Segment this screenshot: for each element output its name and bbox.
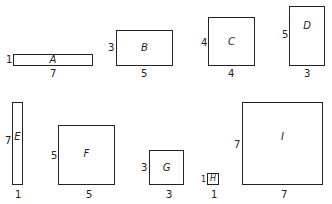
rectangle-name: A <box>14 55 92 65</box>
rectangle-name: G <box>150 163 183 173</box>
rectangle-name: E <box>13 132 22 142</box>
height-label: 7 <box>234 140 240 150</box>
rectangle-d: D <box>289 6 325 66</box>
width-label: 7 <box>281 190 287 200</box>
rectangle-c: C <box>208 17 255 66</box>
width-label: 5 <box>141 69 147 79</box>
rectangle-name: F <box>59 149 114 159</box>
width-label: 3 <box>166 190 172 200</box>
rectangle-f: F <box>58 125 115 185</box>
width-label: 5 <box>86 190 92 200</box>
rectangle-name: B <box>117 43 172 53</box>
height-label: 3 <box>141 163 147 173</box>
rectangle-name: I <box>243 132 322 142</box>
rectangle-a: A <box>13 54 93 66</box>
width-label: 1 <box>211 190 217 200</box>
rectangle-h: H <box>207 173 219 185</box>
height-label: 4 <box>201 38 207 48</box>
rectangle-i: I <box>242 102 323 185</box>
height-label: 5 <box>282 30 288 40</box>
rectangle-name: C <box>209 37 254 47</box>
rectangle-name: H <box>208 174 218 184</box>
height-label: 7 <box>5 136 11 146</box>
width-label: 7 <box>50 69 56 79</box>
width-label: 3 <box>304 69 310 79</box>
width-label: 1 <box>15 190 21 200</box>
height-label: 3 <box>108 43 114 53</box>
rectangle-b: B <box>116 30 173 66</box>
rectangle-g: G <box>149 150 184 185</box>
width-label: 4 <box>228 69 234 79</box>
height-label: 5 <box>51 151 57 161</box>
rectangle-name: D <box>290 21 324 31</box>
rectangle-e: E <box>12 102 23 185</box>
height-label: 1 <box>6 55 12 65</box>
height-label: 1 <box>201 175 206 185</box>
